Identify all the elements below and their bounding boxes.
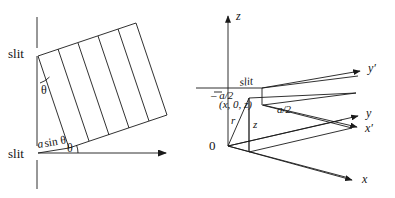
right-diagram-labels: z x y x′ y′ 0 slit – a/2 a/2 (x, 0, z) r… — [209, 9, 376, 186]
height-label-z: z — [252, 118, 258, 130]
slit-label-top: slit — [8, 46, 24, 61]
wavefront-line — [118, 29, 149, 121]
slit-plane-line-upper — [262, 76, 358, 88]
a-over-2-label: a/2 — [277, 103, 292, 115]
figure-canvas: slit slit θ θ a sin θ — [0, 0, 395, 198]
theta-label-bottom: θ — [67, 141, 73, 155]
lower-wavefront-boundary — [69, 115, 167, 148]
wavefront-line — [98, 36, 129, 128]
slit-label-3d: slit — [239, 74, 255, 88]
axis-label-z: z — [235, 9, 241, 23]
radius-label-r: r — [231, 114, 236, 126]
path-difference-label-sin-theta: sin θ — [43, 133, 67, 148]
base-plane-edge-upper — [228, 120, 342, 146]
axis-label-y: y — [365, 106, 372, 120]
slit-to-base-line — [262, 105, 352, 128]
path-difference-label-group: a sin θ — [36, 133, 67, 150]
theta-label-top: θ — [41, 83, 47, 97]
point-coordinates-label: (x, 0, z) — [219, 98, 252, 111]
wavefront-line — [136, 23, 167, 115]
physics-figure: slit slit θ θ a sin θ — [0, 0, 395, 198]
theta-arc-bottom — [77, 145, 79, 153]
axis-label-x-prime: x′ — [364, 121, 373, 135]
base-plane-edge-lower — [228, 146, 349, 178]
left-grating-diagram — [37, 17, 167, 189]
axis-label-y-prime: y′ — [367, 61, 376, 75]
slit-label-bottom: slit — [8, 146, 24, 161]
slit-label-group: slit — [239, 74, 255, 88]
base-plane-diagonal — [249, 128, 352, 152]
axis-y-prime — [262, 71, 360, 88]
axis-label-x: x — [361, 172, 368, 186]
origin-label: 0 — [209, 138, 216, 153]
